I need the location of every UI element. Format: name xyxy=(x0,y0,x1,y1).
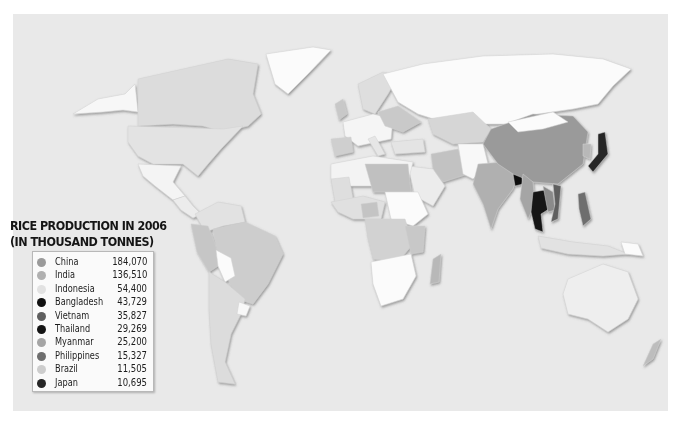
russia xyxy=(383,54,631,124)
legend-swatch-icon xyxy=(37,325,46,334)
legend-swatch-icon xyxy=(37,298,46,307)
canada xyxy=(138,59,261,132)
legend-item: Philippines15,327 xyxy=(33,350,153,364)
legend-value: 54,400 xyxy=(117,283,147,294)
alaska xyxy=(73,84,138,114)
spain xyxy=(331,137,353,156)
legend-country: Indonesia xyxy=(55,283,95,294)
uk xyxy=(335,99,347,120)
legend-country: Myanmar xyxy=(55,336,94,347)
legend-item: China184,070 xyxy=(33,256,153,270)
legend-value: 25,200 xyxy=(117,336,147,347)
legend-swatch-icon xyxy=(37,365,46,374)
legend-item: India136,510 xyxy=(33,269,153,283)
legend: China184,070India136,510Indonesia54,400B… xyxy=(32,251,154,392)
legend-value: 184,070 xyxy=(112,256,147,267)
legend-country: Thailand xyxy=(55,323,90,334)
new-zealand xyxy=(643,339,661,366)
legend-value: 11,505 xyxy=(117,363,147,374)
legend-value: 15,327 xyxy=(117,350,147,361)
legend-country: Japan xyxy=(55,377,78,388)
legend-country: China xyxy=(55,256,78,267)
korea xyxy=(583,144,591,159)
legend-title-line1: RICE PRODUCTION IN 2006 xyxy=(10,218,167,234)
legend-item: Myanmar25,200 xyxy=(33,336,153,350)
indonesia xyxy=(538,236,628,256)
legend-item: Bangladesh43,729 xyxy=(33,296,153,310)
legend-item: Thailand29,269 xyxy=(33,323,153,337)
australia xyxy=(563,264,638,332)
legend-value: 29,269 xyxy=(117,323,147,334)
turkey xyxy=(391,139,425,154)
greenland xyxy=(266,47,331,94)
legend-item: Japan10,695 xyxy=(33,377,153,391)
legend-value: 35,827 xyxy=(117,310,147,321)
legend-country: Brazil xyxy=(55,363,78,374)
japan xyxy=(588,132,608,172)
mexico xyxy=(138,164,185,200)
philippines xyxy=(578,192,591,226)
nigeria xyxy=(361,202,379,218)
uruguay xyxy=(237,302,250,316)
legend-item: Vietnam35,827 xyxy=(33,310,153,324)
legend-title-line2: (IN THOUSAND TONNES) xyxy=(10,234,167,250)
southern-africa xyxy=(371,254,416,306)
legend-swatch-icon xyxy=(37,285,46,294)
legend-value: 136,510 xyxy=(112,269,147,280)
legend-value: 43,729 xyxy=(117,296,147,307)
legend-swatch-icon xyxy=(37,258,46,267)
legend-value: 10,695 xyxy=(117,377,147,388)
legend-swatch-icon xyxy=(37,379,46,388)
legend-country: Vietnam xyxy=(55,310,89,321)
legend-country: India xyxy=(55,269,75,280)
legend-swatch-icon xyxy=(37,338,46,347)
legend-country: Bangladesh xyxy=(55,296,103,307)
legend-swatch-icon xyxy=(37,352,46,361)
legend-swatch-icon xyxy=(37,271,46,280)
legend-item: Brazil11,505 xyxy=(33,363,153,377)
madagascar xyxy=(430,254,441,284)
legend-country: Philippines xyxy=(55,350,99,361)
legend-title: RICE PRODUCTION IN 2006 (IN THOUSAND TON… xyxy=(10,218,167,250)
libya-egypt xyxy=(365,164,411,192)
legend-swatch-icon xyxy=(37,312,46,321)
legend-item: Indonesia54,400 xyxy=(33,283,153,297)
